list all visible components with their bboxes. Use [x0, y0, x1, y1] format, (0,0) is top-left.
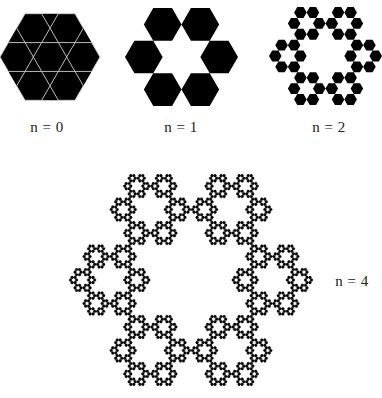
- panel-n1-fractal: [125, 8, 238, 106]
- label-n2: n = 2: [312, 119, 345, 136]
- panel-n0-fractal: [0, 14, 100, 101]
- label-n4: n = 4: [335, 273, 368, 290]
- panel-n4-fractal: [69, 174, 313, 385]
- panel-n2-fractal: [269, 7, 382, 105]
- label-n0: n = 0: [30, 119, 63, 136]
- label-n1: n = 1: [164, 119, 197, 136]
- hexaflake-figure: [0, 0, 382, 398]
